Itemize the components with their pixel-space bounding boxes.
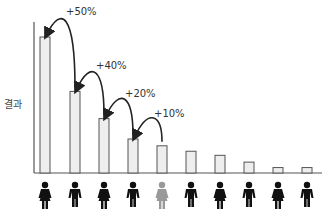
y-axis-label: 결과 — [4, 96, 22, 111]
female-person-icon — [98, 182, 111, 209]
female-person-icon — [272, 182, 285, 209]
male-person-icon — [243, 182, 256, 207]
bar — [40, 37, 50, 173]
growth-label: +40% — [96, 60, 127, 71]
bar — [273, 168, 283, 173]
female-person-icon — [214, 182, 227, 209]
bar — [157, 146, 167, 173]
growth-label: +50% — [66, 6, 97, 17]
growth-arrow — [77, 72, 104, 115]
growth-label: +10% — [154, 108, 185, 119]
person-figures — [39, 182, 314, 209]
male-person-icon — [185, 182, 198, 207]
growth-arrow — [106, 98, 133, 135]
bar — [215, 155, 225, 173]
female-person-icon — [39, 182, 52, 209]
bars — [40, 37, 312, 173]
female-person-icon — [156, 182, 169, 209]
bar — [70, 91, 80, 173]
bar — [99, 119, 109, 173]
growth-arrow — [135, 118, 162, 142]
male-person-icon — [127, 182, 140, 207]
bar — [128, 139, 138, 173]
male-person-icon — [69, 182, 82, 207]
male-person-icon — [301, 182, 314, 207]
bar — [186, 151, 196, 173]
bar — [244, 162, 254, 173]
growth-arrow — [47, 19, 75, 88]
bar — [302, 168, 312, 173]
growth-label: +20% — [125, 88, 156, 99]
